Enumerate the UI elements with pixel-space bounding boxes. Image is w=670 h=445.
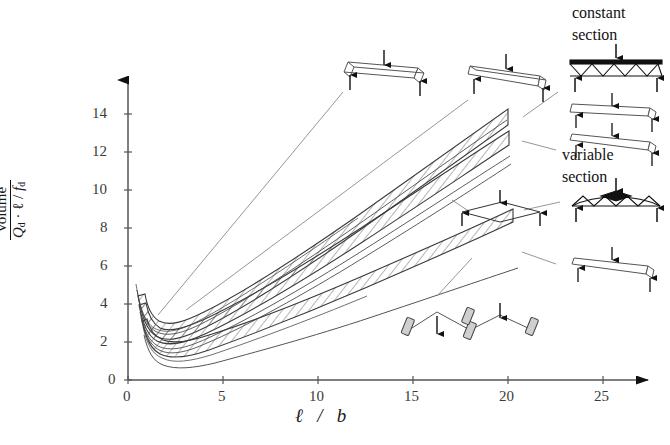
y-tick-label-10: 10 xyxy=(92,181,107,198)
annotation-variable-line1: variable xyxy=(562,146,614,164)
y-den-Q-sub: d xyxy=(16,222,27,227)
annotation-constant-line1: constant xyxy=(572,4,625,22)
y-den-mid: · ℓ / xyxy=(10,191,26,222)
annotation-constant-line2: section xyxy=(572,26,617,44)
folded-plate-icon xyxy=(401,303,539,340)
y-tick-label-4: 4 xyxy=(100,295,108,312)
leader-folded-plate xyxy=(437,258,472,296)
x-axis-label-num: ℓ xyxy=(295,405,303,426)
x-axis-label-sep: / xyxy=(317,405,322,426)
beam-constant-section-icon xyxy=(344,50,424,96)
beam-variable-section-icon xyxy=(468,54,546,102)
x-axis-label: ℓ / b xyxy=(295,405,346,427)
beam-thin-icon xyxy=(572,247,654,292)
leader-thin-beam xyxy=(522,252,556,264)
y-tick-label-8: 8 xyxy=(100,219,108,236)
x-axis-label-den: b xyxy=(337,405,347,426)
data-curves xyxy=(136,109,518,368)
y-axis-label: Volume Qd · ℓ / fd xyxy=(0,150,27,270)
y-tick-label-6: 6 xyxy=(100,257,108,274)
y-den-Q: Q xyxy=(10,227,26,238)
beam-pair-constant-icon xyxy=(570,93,656,132)
annotation-variable-line2: section xyxy=(562,168,607,186)
leader-beam-constant xyxy=(158,92,343,315)
x-tick-label-10: 10 xyxy=(309,388,324,405)
truss-constant-section-icon xyxy=(570,44,662,92)
x-tick-label-25: 25 xyxy=(594,388,609,405)
y-tick-label-12: 12 xyxy=(92,143,107,160)
x-tick-label-5: 5 xyxy=(218,388,226,405)
x-tick-label-15: 15 xyxy=(404,388,419,405)
figure-canvas: 0 2 4 6 8 10 12 14 0 5 10 15 20 25 ℓ / b… xyxy=(0,0,670,445)
y-tick-label-0: 0 xyxy=(108,371,116,388)
y-den-f: f xyxy=(10,187,26,191)
axes xyxy=(128,80,648,380)
y-axis-label-denominator: Qd · ℓ / fd xyxy=(11,180,27,240)
leader-beam-pair xyxy=(522,141,556,150)
y-tick-label-2: 2 xyxy=(100,333,108,350)
leader-truss-constant xyxy=(523,92,558,117)
x-tick-label-0: 0 xyxy=(123,388,131,405)
y-den-f-sub: d xyxy=(16,182,27,187)
leader-beam-variable xyxy=(186,100,468,310)
x-tick-label-20: 20 xyxy=(499,388,514,405)
y-tick-label-14: 14 xyxy=(92,105,107,122)
